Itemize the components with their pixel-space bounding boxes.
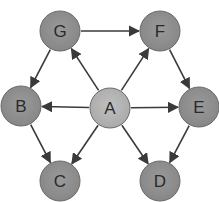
node-label: B xyxy=(15,97,26,116)
edge-a-to-b xyxy=(42,107,89,108)
node-b: B xyxy=(1,86,41,126)
node-g: G xyxy=(40,11,80,51)
edge-e-to-d xyxy=(170,126,189,163)
edge-a-to-f xyxy=(121,49,148,91)
node-e: E xyxy=(179,87,219,127)
edge-f-to-e xyxy=(170,50,190,89)
edge-b-to-c xyxy=(31,125,51,163)
directed-graph: GFBAECD xyxy=(0,0,219,202)
edge-a-to-g xyxy=(71,49,98,91)
node-label: A xyxy=(104,99,116,118)
node-label: E xyxy=(193,98,204,117)
node-label: D xyxy=(154,172,166,191)
edge-a-to-c xyxy=(72,125,98,163)
nodes-layer: GFBAECD xyxy=(1,11,219,201)
edge-g-to-b xyxy=(31,50,51,88)
edge-a-to-d xyxy=(122,125,148,163)
node-c: C xyxy=(40,161,80,201)
node-label: G xyxy=(53,22,66,41)
node-d: D xyxy=(140,161,180,201)
node-label: F xyxy=(155,22,165,41)
node-label: C xyxy=(54,172,66,191)
node-a: A xyxy=(90,88,130,128)
edge-a-to-e xyxy=(131,107,178,108)
node-f: F xyxy=(140,11,180,51)
